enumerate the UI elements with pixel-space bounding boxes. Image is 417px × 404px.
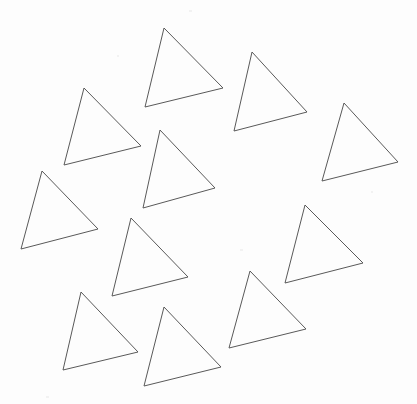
triangles-group: [21, 28, 398, 386]
triangle-1: [145, 28, 223, 107]
triangle-3: [64, 88, 141, 165]
triangle-6: [21, 171, 98, 249]
figure-canvas: Eleven outlined triangles of similar siz…: [0, 0, 417, 404]
triangle-7: [112, 218, 188, 296]
triangle-4: [322, 103, 398, 181]
triangle-11: [229, 271, 306, 348]
triangle-9: [63, 292, 138, 370]
triangle-8: [285, 205, 363, 283]
triangle-scatter-figure: [0, 0, 417, 404]
triangle-10: [144, 307, 221, 386]
triangle-5: [143, 130, 215, 208]
triangle-2: [234, 52, 307, 131]
